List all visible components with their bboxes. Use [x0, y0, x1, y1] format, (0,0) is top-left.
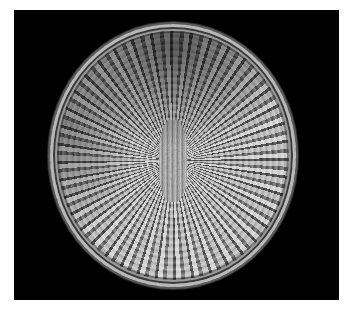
image-frame: [0, 0, 356, 312]
photo-background: [14, 10, 339, 300]
woven-basket: [50, 24, 296, 287]
basket-rim: [50, 24, 296, 287]
